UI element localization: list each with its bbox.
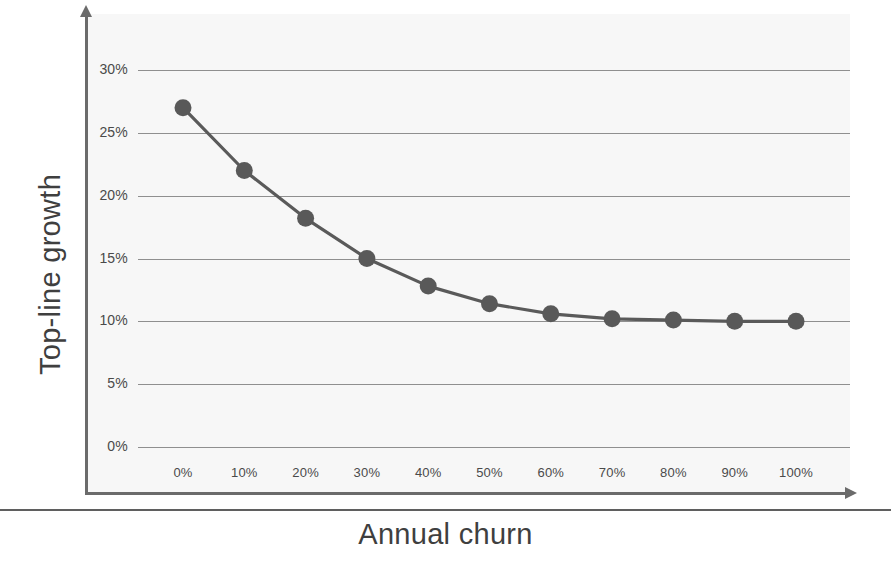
data-series-layer: 0% : 27%10% : 22%20% : 18.2%30% : 15%40%… [0,0,891,563]
data-point-marker: 10% : 22% [236,162,253,179]
bottom-divider [0,509,891,511]
data-point-marker: 30% : 15% [358,250,375,267]
y-axis-title: Top-line growth [34,115,67,435]
x-axis-title: Annual churn [0,518,891,551]
data-point-marker: 100% : 10% [788,313,805,330]
series-markers: 0% : 27%10% : 22%20% : 18.2%30% : 15%40%… [175,99,805,330]
data-point-marker: 0% : 27% [175,99,192,116]
data-point-marker: 70% : 10.2% [604,310,621,327]
data-point-marker: 20% : 18.2% [297,210,314,227]
y-axis-arrow-icon [80,5,92,17]
x-axis-line [85,492,847,495]
series-line [183,108,796,322]
data-point-marker: 90% : 10% [726,313,743,330]
data-point-marker: 60% : 10.6% [542,305,559,322]
x-axis-arrow-icon [845,487,857,499]
data-point-marker: 80% : 10.1% [665,312,682,329]
chart-figure: 0%5%10%15%20%25%30% 0%10%20%30%40%50%60%… [0,0,891,563]
data-point-marker: 50% : 11.4% [481,295,498,312]
y-axis-line [85,14,88,494]
data-point-marker: 40% : 12.8% [420,278,437,295]
